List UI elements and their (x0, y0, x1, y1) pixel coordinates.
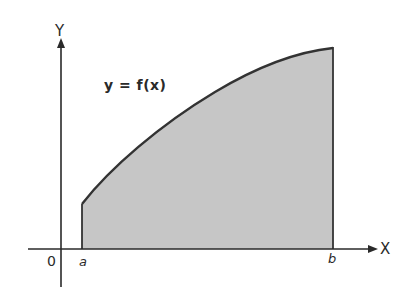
lower-bound-label: a (79, 255, 87, 268)
function-label: y = f(x) (104, 78, 167, 92)
x-axis-label: X (380, 242, 390, 257)
upper-bound-label: b (328, 252, 336, 265)
y-axis-label: Y (55, 24, 64, 39)
origin-label: 0 (47, 254, 56, 268)
diagram-canvas: Y X 0 y = f(x) a b (0, 0, 408, 296)
x-axis-arrow-icon (368, 245, 378, 253)
area-under-curve-figure (0, 0, 408, 296)
